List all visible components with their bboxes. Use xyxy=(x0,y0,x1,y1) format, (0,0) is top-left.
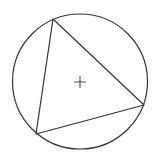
center-cross-icon xyxy=(74,76,86,88)
inscribed-triangle-diagram xyxy=(0,0,157,158)
inscribed-triangle xyxy=(36,19,144,134)
